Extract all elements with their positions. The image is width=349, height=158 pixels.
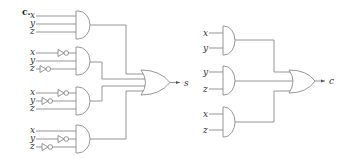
sum-circuit: x y z x y z x y z [29,10,189,153]
and-gate-icon [223,107,235,137]
input-label-z: z [202,125,208,135]
inversion-bubble-icon [64,137,69,142]
and-gate-icon [76,47,90,75]
output-label-c: c [329,76,334,86]
sum-and-gate-3: x y z [29,87,90,115]
and-gate-icon [76,125,90,153]
carry-circuit: x y y z x z c [202,26,334,137]
wire [235,91,291,122]
inversion-bubble-icon [64,51,69,56]
input-label-z: z [29,63,35,73]
carry-and-gate-3: x z [202,107,235,137]
input-label-z: z [29,26,35,36]
wire [90,25,145,74]
or-gate-icon [289,70,315,93]
sum-and-gate-1: x y z [29,10,90,39]
wire [90,91,145,139]
input-label-z: z [29,141,35,151]
input-label-y: y [202,43,209,53]
not-gate-icon [58,90,64,97]
sum-and-gate-4: x y z [29,125,90,153]
input-label-z: z [29,103,35,113]
input-label-x: x [203,28,208,38]
and-gate-icon [223,26,235,55]
wire [90,62,147,79]
input-label-z: z [202,84,208,94]
input-label-y: y [202,67,209,77]
input-label-x: x [203,109,208,119]
not-gate-icon [58,50,64,57]
carry-and-gate-1: x y [202,26,235,55]
and-gate-icon [76,87,90,115]
inversion-bubble-icon [48,145,53,150]
output-label-s: s [184,78,189,88]
carry-and-gate-2: y z [202,66,235,95]
not-gate-icon [40,66,46,73]
not-gate-icon [58,136,64,143]
not-gate-icon [42,98,48,105]
inversion-bubble-icon [46,67,51,72]
and-gate-icon [223,66,235,95]
or-gate-icon [141,70,170,95]
inversion-bubble-icon [64,91,69,96]
and-gate-icon [76,11,90,39]
sum-and-gate-2: x y z [29,47,90,75]
not-gate-icon [42,144,48,151]
inversion-bubble-icon [48,99,53,104]
wire [235,40,291,72]
full-adder-circuit-diagram: c. x y z x y z [0,0,349,158]
wire [90,86,147,101]
